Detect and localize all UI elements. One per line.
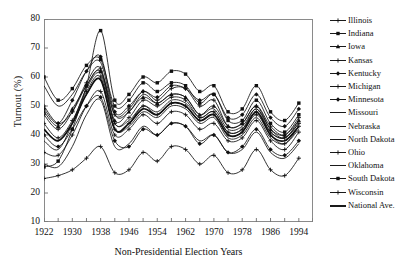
legend-marker-icon [330,173,346,184]
legend-item-label: Wisconsin [348,188,384,197]
x-axis-label: Non-Presidential Election Years [44,246,313,257]
legend-marker-icon [330,68,346,79]
legend-item-label: South Dakota [348,174,395,183]
legend-marker-icon [330,94,346,105]
legend-item-label: Ohio [348,148,365,157]
legend-item-indiana[interactable]: Indiana [330,27,405,40]
legend-item-national-ave[interactable]: National Ave. [330,199,405,212]
legend-item-label: Kansas [348,56,373,65]
legend-item-label: Indiana [348,29,374,38]
legend-item-label: Michigan [348,82,381,91]
legend-marker-icon [330,160,346,171]
legend-marker-icon [330,187,346,198]
legend-marker-icon [330,121,346,132]
chart-legend: IllinoisIndianaIowaKansasKentuckyMichiga… [330,14,405,212]
legend-item-label: Illinois [348,16,372,25]
legend-marker-icon [330,15,346,26]
legend-item-label: Oklahoma [348,161,383,170]
legend-item-nebraska[interactable]: Nebraska [330,120,405,133]
legend-marker-icon [330,107,346,118]
legend-marker-icon [330,134,346,145]
legend-marker-icon [330,147,346,158]
legend-item-illinois[interactable]: Illinois [330,14,405,27]
legend-item-label: National Ave. [348,201,395,210]
x-tick-label: 1994 [279,228,319,238]
legend-item-label: Minnesota [348,95,384,104]
legend-marker-icon [330,28,346,39]
legend-item-kansas[interactable]: Kansas [330,54,405,67]
legend-item-label: North Dakota [348,135,395,144]
legend-item-kentucky[interactable]: Kentucky [330,67,405,80]
legend-item-label: Iowa [348,42,365,51]
legend-item-minnesota[interactable]: Minnesota [330,93,405,106]
legend-item-label: Kentucky [348,69,381,78]
legend-item-missouri[interactable]: Missouri [330,106,405,119]
legend-marker-icon [330,81,346,92]
legend-item-wisconsin[interactable]: Wisconsin [330,185,405,198]
chart-figure: Turnout (%) 1020304050607080 19221930193… [0,0,405,269]
legend-item-south-dakota[interactable]: South Dakota [330,172,405,185]
legend-item-label: Missouri [348,108,378,117]
legend-marker-icon [330,41,346,52]
legend-item-label: Nebraska [348,122,380,131]
legend-item-north-dakota[interactable]: North Dakota [330,133,405,146]
legend-item-michigan[interactable]: Michigan [330,80,405,93]
legend-marker-icon [330,55,346,66]
legend-item-iowa[interactable]: Iowa [330,40,405,53]
legend-marker-icon [330,200,346,211]
legend-item-ohio[interactable]: Ohio [330,146,405,159]
legend-item-oklahoma[interactable]: Oklahoma [330,159,405,172]
